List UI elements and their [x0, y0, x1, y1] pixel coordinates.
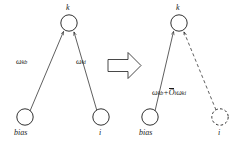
left-edge-i-weight-label: ωki: [76, 58, 86, 66]
left-node-bias-label: bias: [14, 129, 27, 137]
right-node-i: [212, 109, 228, 125]
right-node-bias-label: bias: [139, 129, 152, 137]
left-edge-i-to-k: [74, 32, 97, 111]
right-edge-bias-to-k: [155, 32, 174, 112]
omega-subscript: kb: [22, 59, 28, 65]
omega-subscript: ki: [82, 59, 86, 65]
right-node-i-label: i: [218, 129, 220, 137]
right-edge-bias-formula-label: ωkb+Oiωki: [152, 89, 186, 97]
left-node-k: [61, 15, 77, 31]
right-block-arrow-icon: [108, 53, 141, 79]
diagram-vector-layer: [0, 0, 241, 144]
left-node-k-label: k: [66, 4, 70, 12]
right-edge-i-to-k: [184, 32, 216, 110]
left-node-i-label: i: [99, 129, 101, 137]
left-edge-bias-to-k: [30, 32, 64, 112]
figure-canvas: k ωkb ωki bias i k ωkb+Oiωki bias i: [0, 0, 241, 144]
left-edge-bias-weight-label: ωkb: [16, 58, 27, 66]
right-node-k: [171, 15, 187, 31]
omega-subscript-ki: ki: [182, 90, 186, 96]
left-node-bias: [17, 109, 33, 125]
right-node-bias: [142, 109, 158, 125]
left-node-i: [93, 109, 109, 125]
output-overline-symbol: O: [169, 89, 175, 97]
right-node-k-label: k: [176, 4, 180, 12]
